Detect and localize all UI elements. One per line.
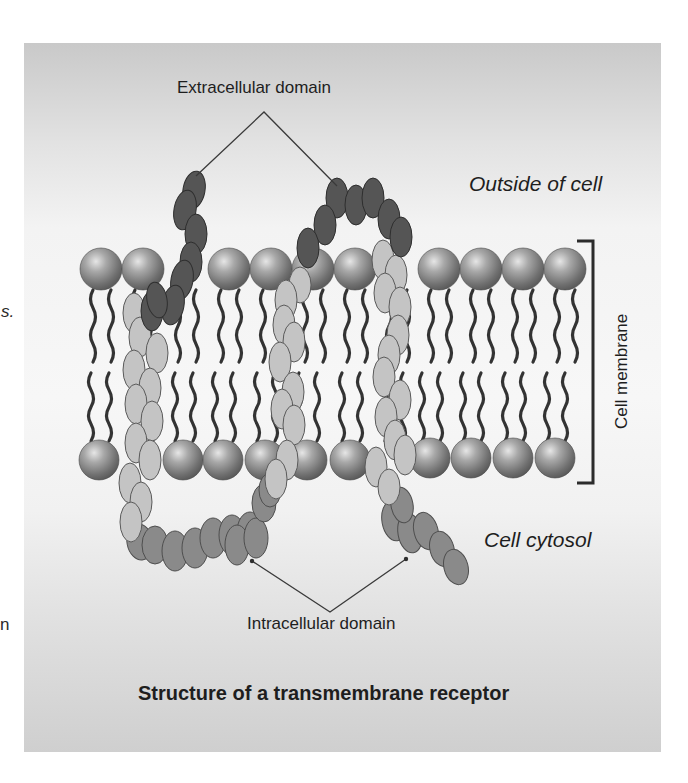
transmembrane-receptor-diagram <box>0 0 688 783</box>
intracellular-domain-chain <box>124 473 472 587</box>
cell-cytosol-label: Cell cytosol <box>484 528 591 552</box>
figure-title: Structure of a transmembrane receptor <box>138 682 509 705</box>
outside-of-cell-label: Outside of cell <box>469 172 602 196</box>
cell-membrane-label: Cell membrane <box>612 314 632 429</box>
intracellular-domain-label: Intracellular domain <box>247 614 395 634</box>
extracellular-domain-label: Extracellular domain <box>177 78 331 98</box>
leader-dots <box>250 557 408 563</box>
transmembrane-helix-left <box>119 293 168 542</box>
